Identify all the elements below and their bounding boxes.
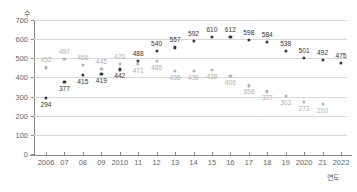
data-point-label: 377	[59, 85, 70, 92]
x-tick-mark	[157, 152, 158, 156]
x-tick-mark	[101, 152, 102, 156]
x-tick-mark	[286, 152, 287, 156]
x-tick-label: 13	[171, 158, 179, 167]
y-tick-label: 100	[2, 130, 28, 139]
data-point-label: 327	[262, 94, 273, 101]
y-tick-mark	[31, 77, 34, 78]
x-tick-mark	[83, 152, 84, 156]
data-point-label: 358	[243, 88, 254, 95]
data-point-label: 260	[317, 107, 328, 114]
data-point	[155, 49, 158, 52]
y-tick-label: 700	[2, 16, 28, 25]
y-tick-label: 0	[2, 150, 28, 159]
x-tick-mark	[64, 152, 65, 156]
x-tick-mark	[194, 152, 195, 156]
data-point	[229, 35, 232, 38]
data-point	[303, 100, 306, 103]
y-tick-label: 200	[2, 111, 28, 120]
y-tick-mark	[31, 135, 34, 136]
gridline	[34, 39, 347, 40]
data-point	[118, 62, 121, 65]
x-tick-mark	[175, 152, 176, 156]
y-tick-label: 500	[2, 54, 28, 63]
data-point-label: 598	[243, 29, 254, 36]
y-tick-mark	[31, 20, 34, 21]
y-tick-mark	[31, 39, 34, 40]
scatter-chart: 수 연도 0100200300400500600700 200607080920…	[0, 0, 357, 192]
x-tick-mark	[304, 152, 305, 156]
data-point-label: 415	[77, 78, 88, 85]
y-tick-mark	[31, 154, 34, 155]
x-tick-label: 2006	[38, 158, 55, 167]
gridline	[34, 97, 347, 98]
data-point-label: 492	[317, 49, 328, 56]
x-tick-label: 19	[282, 158, 290, 167]
data-point-label: 557	[170, 36, 181, 43]
data-point-label: 501	[299, 47, 310, 54]
data-point	[266, 90, 269, 93]
data-point	[266, 41, 269, 44]
x-tick-mark	[212, 152, 213, 156]
data-point-label: 445	[96, 58, 107, 65]
x-axis-title: 연도	[327, 172, 339, 182]
data-point	[81, 63, 84, 66]
data-point	[210, 69, 213, 72]
data-point-label: 584	[262, 31, 273, 38]
data-point-label: 540	[151, 40, 162, 47]
data-point-label: 485	[151, 64, 162, 71]
x-tick-mark	[46, 152, 47, 156]
gridline	[34, 116, 347, 117]
x-tick-label: 09	[97, 158, 105, 167]
x-tick-mark	[120, 152, 121, 156]
y-tick-mark	[31, 58, 34, 59]
x-tick-mark	[323, 152, 324, 156]
data-point-label: 466	[77, 54, 88, 61]
x-tick-label: 16	[226, 158, 234, 167]
x-tick-label: 11	[134, 158, 142, 167]
data-point	[173, 46, 176, 49]
x-tick-label: 2022	[333, 158, 350, 167]
data-point	[63, 57, 66, 60]
data-point	[284, 49, 287, 52]
data-point	[100, 67, 103, 70]
data-point-label: 452	[40, 56, 51, 63]
data-point	[321, 103, 324, 106]
data-point-label: 592	[188, 30, 199, 37]
data-point	[81, 73, 84, 76]
x-tick-label: 18	[263, 158, 271, 167]
gridline	[34, 135, 347, 136]
gridline	[34, 20, 347, 21]
data-point-label: 436	[170, 74, 181, 81]
data-point-label: 406	[225, 79, 236, 86]
y-tick-label: 400	[2, 73, 28, 82]
data-point-label: 436	[188, 74, 199, 81]
x-tick-mark	[230, 152, 231, 156]
x-tick-label: 2010	[111, 158, 128, 167]
x-tick-label: 17	[245, 158, 253, 167]
data-point	[192, 69, 195, 72]
data-point-label: 471	[133, 67, 144, 74]
x-tick-label: 12	[152, 158, 160, 167]
data-point	[63, 80, 66, 83]
data-point-label: 612	[225, 26, 236, 33]
y-tick-label: 600	[2, 35, 28, 44]
data-point	[100, 72, 103, 75]
x-tick-mark	[267, 152, 268, 156]
x-tick-label: 14	[189, 158, 197, 167]
data-point-label: 419	[96, 77, 107, 84]
data-point-label: 488	[133, 50, 144, 57]
data-point-label: 303	[280, 99, 291, 106]
x-tick-mark	[341, 152, 342, 156]
y-tick-mark	[31, 97, 34, 98]
data-point-label: 272	[299, 105, 310, 112]
data-point-label: 470	[114, 53, 125, 60]
x-tick-mark	[138, 152, 139, 156]
data-point	[247, 38, 250, 41]
data-point	[339, 61, 342, 64]
data-point	[44, 96, 47, 99]
data-point-label: 442	[114, 72, 125, 79]
x-tick-label: 15	[208, 158, 216, 167]
data-point-label: 438	[206, 73, 217, 80]
data-point-label: 497	[59, 48, 70, 55]
data-point	[137, 62, 140, 65]
